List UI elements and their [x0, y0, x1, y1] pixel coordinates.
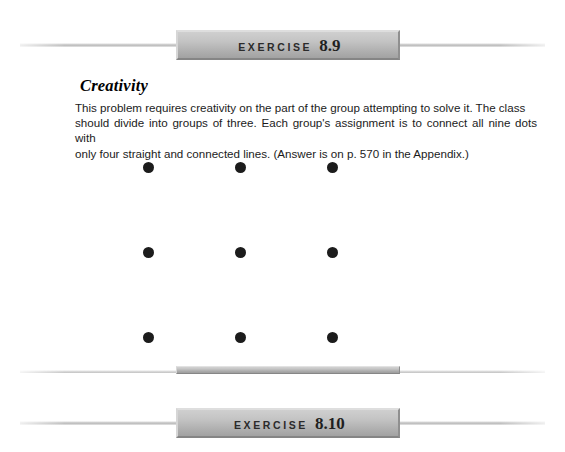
puzzle-dot [327, 247, 338, 258]
exercise-label: EXERCISE [231, 419, 308, 431]
section-title: Creativity [80, 76, 148, 96]
puzzle-dot [327, 332, 338, 343]
puzzle-dot [143, 247, 154, 258]
exercise-number: 8.9 [319, 36, 340, 56]
exercise-instructions: This problem requires creativity on the … [75, 100, 537, 161]
divider-slab [176, 366, 400, 374]
puzzle-dot [143, 162, 154, 173]
puzzle-dot [235, 247, 246, 258]
page-canvas: EXERCISE 8.9 Creativity This problem req… [0, 0, 565, 452]
paragraph-line: This problem requires creativity on the … [75, 100, 537, 115]
exercise-label: EXERCISE [236, 41, 313, 53]
nine-dot-puzzle-grid [143, 162, 343, 344]
exercise-number: 8.10 [315, 414, 345, 434]
exercise-banner-bottom: EXERCISE 8.10 [0, 408, 565, 438]
section-divider [0, 365, 565, 379]
plaque-inner: EXERCISE 8.10 [231, 414, 344, 434]
paragraph-line: only four straight and connected lines. … [75, 146, 537, 161]
puzzle-dot [143, 332, 154, 343]
exercise-plaque: EXERCISE 8.9 [176, 30, 400, 60]
puzzle-dot [327, 162, 338, 173]
paragraph-line: should divide into groups of three. Each… [75, 115, 537, 145]
puzzle-dot [235, 332, 246, 343]
plaque-inner: EXERCISE 8.9 [236, 36, 341, 56]
exercise-banner-top: EXERCISE 8.9 [0, 30, 565, 60]
exercise-plaque: EXERCISE 8.10 [176, 408, 400, 438]
puzzle-dot [235, 162, 246, 173]
